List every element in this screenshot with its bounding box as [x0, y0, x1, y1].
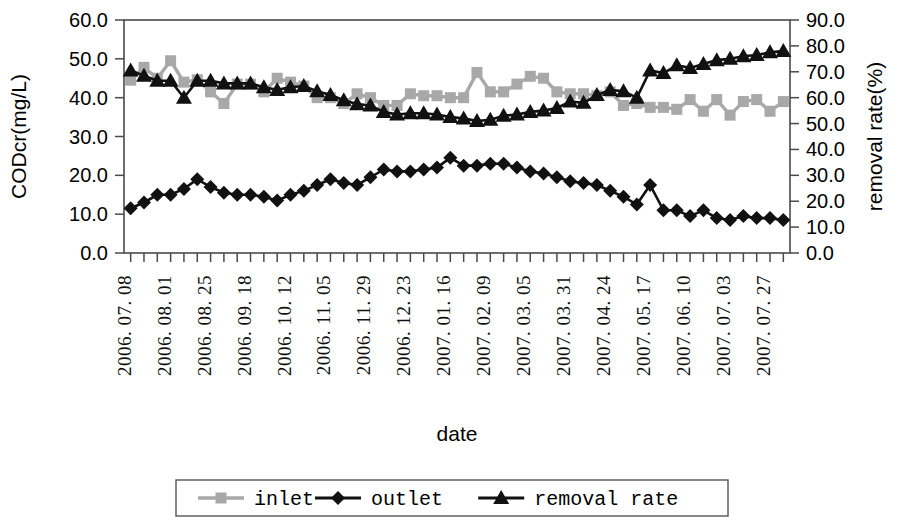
data-point	[549, 100, 565, 114]
data-point	[510, 161, 524, 175]
data-point	[671, 104, 682, 115]
data-point	[683, 209, 697, 223]
data-point	[124, 201, 138, 215]
series-removal-rate	[123, 43, 792, 127]
data-point	[230, 188, 244, 202]
data-point	[617, 190, 631, 204]
data-point	[656, 203, 670, 217]
y-axis-tick-label: 30.0	[69, 126, 108, 148]
x-axis-title: date	[437, 422, 478, 445]
x-axis-date-label: 2006. 11. 29	[353, 275, 374, 375]
data-point	[685, 94, 696, 105]
x-axis-date-label: 2007. 01. 16	[433, 275, 454, 376]
data-point	[363, 170, 377, 184]
data-point	[150, 188, 164, 202]
data-point	[405, 88, 416, 99]
y2-axis-tick-label: 0.0	[806, 242, 834, 264]
series-line	[131, 158, 784, 220]
data-point	[337, 176, 351, 190]
data-point	[244, 188, 258, 202]
legend-label: removal rate	[534, 488, 678, 511]
y-axis-tick-label: 60.0	[69, 9, 108, 31]
legend-label: inlet	[254, 488, 314, 511]
data-point	[603, 184, 617, 198]
data-point	[418, 90, 429, 101]
data-point	[470, 159, 484, 173]
data-point	[310, 178, 324, 192]
data-point	[669, 57, 685, 71]
data-point	[710, 211, 724, 225]
data-point	[377, 163, 391, 177]
y2-axis-tick-label: 30.0	[806, 164, 845, 186]
data-point	[751, 94, 762, 105]
data-point	[350, 178, 364, 192]
data-point	[323, 172, 337, 186]
data-point	[483, 157, 497, 171]
x-axis-date-label: 2007. 02. 09	[473, 275, 494, 376]
data-point	[538, 73, 549, 84]
data-point	[550, 170, 564, 184]
data-point	[218, 98, 229, 109]
x-axis-date-label: 2006. 10. 12	[274, 275, 295, 376]
y2-axis-tick-label: 60.0	[806, 87, 845, 109]
data-point	[123, 62, 139, 76]
data-point	[297, 184, 311, 198]
data-point	[562, 94, 578, 108]
data-point	[765, 106, 776, 117]
data-point	[725, 110, 736, 121]
data-point	[485, 86, 496, 97]
data-point	[658, 102, 669, 113]
data-point	[618, 100, 629, 111]
x-axis-date-label: 2007. 07. 03	[713, 275, 734, 376]
data-point	[390, 164, 404, 178]
data-point	[590, 178, 604, 192]
data-point	[629, 90, 645, 104]
data-point	[577, 176, 591, 190]
y2-axis-tick-label: 50.0	[806, 113, 845, 135]
data-point	[670, 203, 684, 217]
data-point	[602, 82, 618, 96]
data-point	[776, 213, 790, 227]
y-axis-tick-label: 50.0	[69, 48, 108, 70]
data-point	[778, 96, 789, 107]
x-axis-date-label: 2007. 06. 10	[673, 275, 694, 376]
data-point	[165, 55, 176, 66]
data-point	[498, 86, 509, 97]
y-axis-tick-label: 20.0	[69, 164, 108, 186]
data-point	[738, 96, 749, 107]
data-point	[551, 86, 562, 97]
y2-axis-title: removal rate(%)	[863, 62, 886, 211]
y2-axis-tick-label: 90.0	[806, 9, 845, 31]
series-outlet	[124, 151, 791, 227]
data-point	[523, 164, 537, 178]
data-point	[645, 102, 656, 113]
x-axis-date-label: 2007. 03. 05	[513, 275, 534, 376]
data-point	[164, 188, 178, 202]
legend-item-outlet[interactable]: outlet	[315, 488, 443, 511]
y2-axis-tick-label: 20.0	[806, 190, 845, 212]
data-point	[775, 43, 791, 57]
data-point	[417, 163, 431, 177]
data-point	[205, 86, 216, 97]
legend-item-removal-rate[interactable]: removal rate	[478, 488, 678, 511]
data-point	[284, 188, 298, 202]
x-axis-date-label: 2006. 07. 08	[114, 275, 135, 376]
data-point	[723, 213, 737, 227]
y-axis-tick-label: 0.0	[80, 242, 108, 264]
x-axis-date-label: 2007. 04. 24	[593, 275, 614, 376]
x-axis-date-label: 2006. 08. 01	[154, 275, 175, 376]
data-point	[711, 94, 722, 105]
legend-item-inlet[interactable]: inlet	[198, 488, 314, 511]
data-point	[445, 92, 456, 103]
chart-container: 0.010.020.030.040.050.060.00.010.020.030…	[0, 0, 904, 520]
chart-svg: 0.010.020.030.040.050.060.00.010.020.030…	[0, 0, 904, 520]
data-point	[217, 186, 231, 200]
x-axis-date-label: 2007. 07. 27	[753, 275, 774, 376]
y-axis-tick-label: 40.0	[69, 87, 108, 109]
data-point	[497, 157, 511, 171]
x-axis-date-label: 2007. 05. 17	[633, 275, 654, 376]
x-axis-date-label: 2006. 12. 23	[393, 275, 414, 376]
data-point	[698, 106, 709, 117]
data-point	[763, 211, 777, 225]
x-axis-date-label: 2006. 09. 18	[234, 275, 255, 376]
